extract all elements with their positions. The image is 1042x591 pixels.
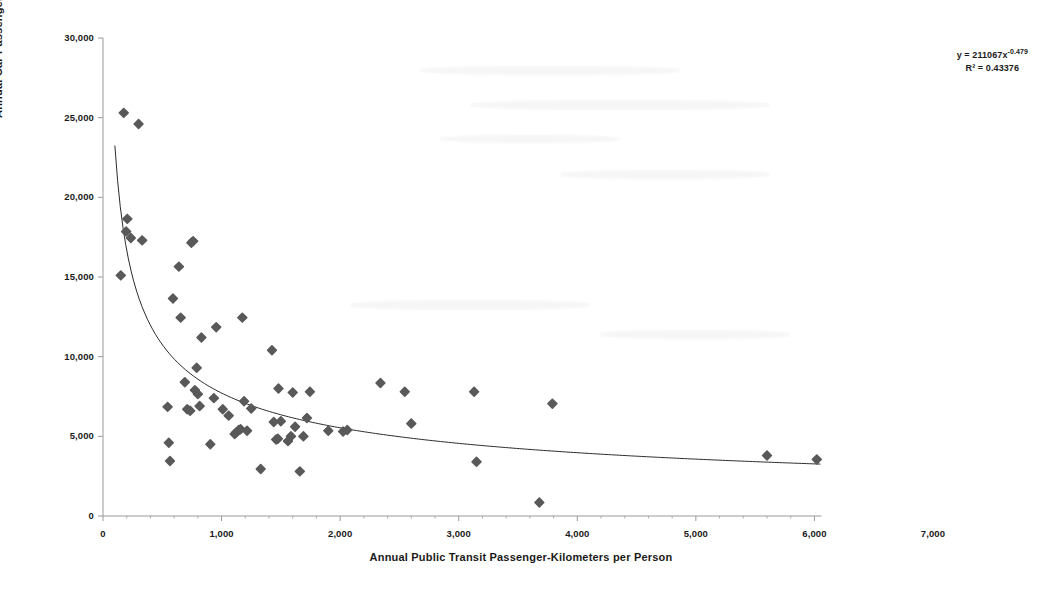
equation-text: y = 211067x-0.479 xyxy=(957,47,1028,62)
data-point xyxy=(376,379,385,388)
data-point xyxy=(224,411,233,420)
data-point xyxy=(763,451,772,460)
y-axis-tick-label: 10,000 xyxy=(34,351,94,362)
data-point xyxy=(164,438,173,447)
data-point xyxy=(176,313,185,322)
data-point xyxy=(195,402,204,411)
data-point xyxy=(274,384,283,393)
x-axis-tick-label: 4,000 xyxy=(537,528,617,539)
chart-svg xyxy=(103,38,933,516)
data-point xyxy=(299,432,308,441)
x-axis-tick-label: 3,000 xyxy=(419,528,499,539)
data-point-group xyxy=(116,108,821,506)
r-squared-text: R² = 0.43376 xyxy=(957,62,1028,75)
data-point xyxy=(291,422,300,431)
y-axis-tick-label: 25,000 xyxy=(34,112,94,123)
data-point xyxy=(174,262,183,271)
data-point xyxy=(138,236,147,245)
x-axis-tick-label: 2,000 xyxy=(300,528,380,539)
data-point xyxy=(306,387,315,396)
data-point xyxy=(206,440,215,449)
data-point xyxy=(209,394,218,403)
data-point xyxy=(472,457,481,466)
data-point xyxy=(400,387,409,396)
data-point xyxy=(192,363,201,372)
data-point xyxy=(548,399,557,408)
x-axis-title: Annual Public Transit Passenger-Kilomete… xyxy=(0,551,1042,563)
x-axis-tick-label: 5,000 xyxy=(656,528,736,539)
data-point xyxy=(247,404,256,413)
data-point xyxy=(116,271,125,280)
data-point xyxy=(123,214,132,223)
data-point xyxy=(218,405,227,414)
data-point xyxy=(256,465,265,474)
data-point xyxy=(169,294,178,303)
data-point xyxy=(324,426,333,435)
y-axis-title: Annual Car Passenger-Kilometers per Pers… xyxy=(0,0,4,118)
data-point xyxy=(119,108,128,117)
data-point xyxy=(268,346,277,355)
data-point xyxy=(180,378,189,387)
y-axis-tick-label: 15,000 xyxy=(34,271,94,282)
chart-canvas: 05,00010,00015,00020,00025,00030,00001,0… xyxy=(0,0,1042,591)
data-point xyxy=(212,323,221,332)
data-point xyxy=(166,457,175,466)
y-axis-tick-label: 5,000 xyxy=(34,430,94,441)
data-point xyxy=(295,467,304,476)
data-point xyxy=(535,498,544,507)
trendline xyxy=(115,146,821,465)
x-axis-tick-label: 1,000 xyxy=(182,528,262,539)
x-axis-tick-label: 6,000 xyxy=(774,528,854,539)
x-axis-tick-label: 0 xyxy=(63,528,143,539)
x-axis-tick-label: 7,000 xyxy=(893,528,973,539)
data-point xyxy=(197,333,206,342)
data-point xyxy=(276,417,285,426)
y-axis-tick-label: 0 xyxy=(34,510,94,521)
axis-group xyxy=(98,38,822,521)
trendline-annotation: y = 211067x-0.479 R² = 0.43376 xyxy=(957,47,1028,75)
plot-area: 05,00010,00015,00020,00025,00030,00001,0… xyxy=(103,38,933,516)
data-point xyxy=(303,414,312,423)
data-point xyxy=(470,387,479,396)
data-point xyxy=(134,120,143,129)
data-point xyxy=(288,388,297,397)
y-axis-tick-label: 30,000 xyxy=(34,32,94,43)
data-point xyxy=(163,402,172,411)
data-point xyxy=(407,419,416,428)
data-point xyxy=(238,313,247,322)
data-point xyxy=(812,455,821,464)
y-axis-tick-label: 20,000 xyxy=(34,191,94,202)
